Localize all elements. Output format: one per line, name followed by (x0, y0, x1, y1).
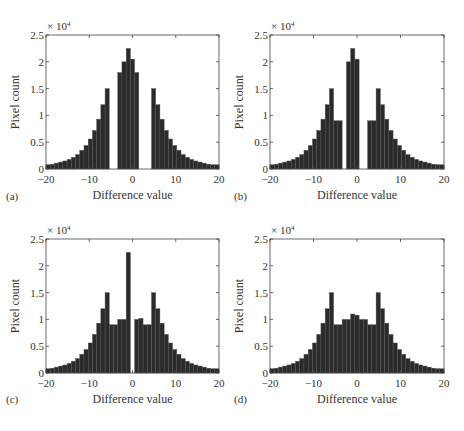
histogram-bar (71, 157, 75, 169)
histogram-bar (359, 319, 363, 373)
histogram-bar (198, 162, 202, 169)
y-scale-multiplier: × 104 (47, 224, 71, 236)
histogram-bar (177, 354, 181, 373)
chart-d: 00.511.522.5−20−1001020× 104Difference v… (232, 215, 464, 431)
histogram-bar (215, 369, 219, 373)
histogram-bar (126, 252, 130, 373)
histogram-bar (54, 163, 58, 169)
x-tick-label: 10 (395, 377, 407, 389)
histogram-bar (368, 121, 372, 169)
x-tick-label: 10 (170, 173, 182, 185)
histogram-bar (168, 139, 172, 169)
x-axis-label: Difference value (92, 188, 172, 202)
histogram-panel-c: 00.511.522.5−20−1001020× 104Difference v… (0, 215, 232, 430)
histogram-bar (385, 323, 389, 373)
histogram-bar (402, 150, 406, 169)
y-axis-label: Pixel count (232, 278, 246, 333)
x-axis-label: Difference value (317, 188, 397, 202)
histogram-bar (397, 145, 401, 169)
histogram-bar (88, 343, 92, 373)
histogram-bar (135, 73, 139, 169)
histogram-bar (300, 155, 304, 169)
histogram-bar (198, 366, 202, 373)
y-scale-multiplier: × 104 (271, 20, 295, 32)
x-tick-label: −20 (261, 377, 279, 389)
histogram-bar (185, 157, 189, 169)
histogram-bar (122, 62, 126, 169)
histogram-bar (406, 359, 410, 373)
x-tick-label: 0 (130, 377, 136, 389)
histogram-bar (147, 325, 151, 373)
y-tick-label: 2.5 (254, 233, 268, 245)
histogram-bar (300, 359, 304, 373)
histogram-bar (389, 334, 393, 373)
y-tick-label: 1.5 (30, 83, 44, 95)
x-tick-label: 0 (130, 173, 136, 185)
x-tick-label: −10 (305, 377, 323, 389)
histogram-bar (338, 121, 342, 169)
histogram-bar (334, 121, 338, 169)
histogram-bar (189, 363, 193, 373)
histogram-bar (80, 150, 84, 169)
histogram-bar (156, 105, 160, 169)
y-tick-label: 1 (263, 109, 269, 121)
histogram-bar (63, 365, 67, 373)
x-tick-label: 20 (214, 377, 226, 389)
histogram-bar (402, 354, 406, 373)
x-tick-label: 0 (354, 377, 360, 389)
histogram-bar (431, 368, 435, 373)
histogram-bar (139, 318, 143, 373)
histogram-panel-a: 00.511.522.5−20−1001020× 104Difference v… (0, 0, 232, 215)
histogram-bar (164, 334, 168, 373)
histogram-bar (287, 365, 291, 373)
histogram-bar (342, 319, 346, 373)
histogram-bar (71, 361, 75, 373)
histogram-bar (278, 367, 282, 373)
histogram-bar (84, 349, 88, 373)
histogram-bar (393, 343, 397, 373)
histogram-panel-b: 00.511.522.5−20−1001020× 104Difference v… (232, 0, 464, 215)
histogram-bar (304, 150, 308, 169)
histogram-bar (274, 164, 278, 169)
histogram-bar (389, 130, 393, 169)
histogram-bar (46, 369, 50, 373)
histogram-bar (363, 319, 367, 373)
histogram-bar (304, 354, 308, 373)
histogram-bar (291, 363, 295, 373)
histogram-bar (84, 145, 88, 169)
histogram-bar (270, 369, 274, 373)
histogram-bar (355, 59, 359, 169)
panel-letter: (c) (6, 393, 18, 405)
histogram-bar (194, 365, 198, 373)
x-tick-label: 0 (354, 173, 360, 185)
histogram-bar (312, 343, 316, 373)
histogram-bar (202, 163, 206, 169)
histogram-bar (173, 145, 177, 169)
chart-c: 00.511.522.5−20−1001020× 104Difference v… (0, 215, 232, 431)
histogram-bar (291, 159, 295, 169)
histogram-bar (215, 165, 219, 169)
histogram-bar (278, 163, 282, 169)
x-tick-label: −20 (37, 173, 55, 185)
histogram-bar (92, 130, 96, 169)
x-tick-label: −20 (261, 173, 279, 185)
histogram-bar (355, 315, 359, 373)
y-axis-label: Pixel count (8, 278, 22, 333)
histogram-bar (50, 368, 54, 373)
histogram-bar (338, 325, 342, 373)
histogram-bar (312, 139, 316, 169)
panel-letter: (a) (6, 190, 18, 202)
histogram-panel-d: 00.511.522.5−20−1001020× 104Difference v… (232, 215, 464, 430)
histogram-bar (372, 325, 376, 373)
y-tick-label: 1.5 (254, 83, 268, 95)
histogram-bar (151, 89, 155, 169)
histogram-bar (397, 349, 401, 373)
histogram-bar (105, 89, 109, 169)
axes-frame (46, 239, 219, 373)
histogram-bar (427, 367, 431, 373)
histogram-bar (351, 48, 355, 169)
histogram-bar (80, 354, 84, 373)
histogram-bar (423, 366, 427, 373)
histogram-bar (270, 165, 274, 169)
x-tick-label: −10 (81, 173, 99, 185)
